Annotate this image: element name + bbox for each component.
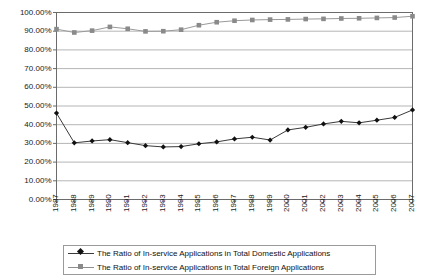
x-axis-tick-label: 1989 [88,194,96,212]
x-axis-tick-label: 1991 [123,194,131,212]
x-axis-tick-label: 1994 [177,194,185,212]
y-axis-tick-label: 30.00% [24,139,51,147]
x-axis-tick-label: 1993 [159,194,167,212]
x-axis-tick-label: 1990 [105,194,113,212]
y-axis-tick-label: 0.00% [29,196,52,204]
legend-label-foreign: The Ratio of In-service Applications in … [97,263,324,272]
x-axis-tick-label: 1998 [248,194,256,212]
y-axis-tick-label: 80.00% [24,46,51,54]
x-axis-tick-label: 2002 [319,194,327,212]
chart-container: 100.00%90.00%80.00%70.00%60.00%50.00%40.… [0,0,425,278]
y-axis-tick-label: 100.00% [20,9,52,17]
x-axis-tick-label: 2000 [283,194,291,212]
x-axis-tick-label: 1997 [230,194,238,212]
x-axis-tick-label: 2004 [355,194,363,212]
x-axis-tick-label: 1987 [52,194,60,212]
x-axis-tick-label: 2003 [337,194,345,212]
x-axis-tick-label: 1995 [194,194,202,212]
y-axis-tick-label: 40.00% [24,121,51,129]
legend-item-foreign: The Ratio of In-service Applications in … [64,260,375,274]
x-axis-tick-label: 2001 [301,194,309,212]
y-axis-tick-label: 70.00% [24,65,51,73]
chart-plot-area [0,0,425,278]
legend-marker-diamond-icon [68,248,94,258]
x-axis-tick-label: 1999 [266,194,274,212]
chart-legend: The Ratio of In-service Applications in … [63,245,376,275]
y-axis-tick-label: 20.00% [24,158,51,166]
legend-label-domestic: The Ratio of In-service Applications in … [97,249,330,258]
x-axis-tick-label: 1988 [70,194,78,212]
x-axis-tick-label: 2005 [372,194,380,212]
x-axis-tick-label: 2007 [408,194,416,212]
y-axis-tick-label: 90.00% [24,27,51,35]
x-axis-tick-label: 1992 [141,194,149,212]
y-axis-tick-label: 50.00% [24,102,51,110]
y-axis-tick-label: 10.00% [24,177,51,185]
y-axis-tick-label: 60.00% [24,83,51,91]
legend-marker-square-icon [68,262,94,272]
legend-item-domestic: The Ratio of In-service Applications in … [64,246,375,260]
x-axis-tick-label: 1996 [212,194,220,212]
x-axis-tick-label: 2006 [390,194,398,212]
